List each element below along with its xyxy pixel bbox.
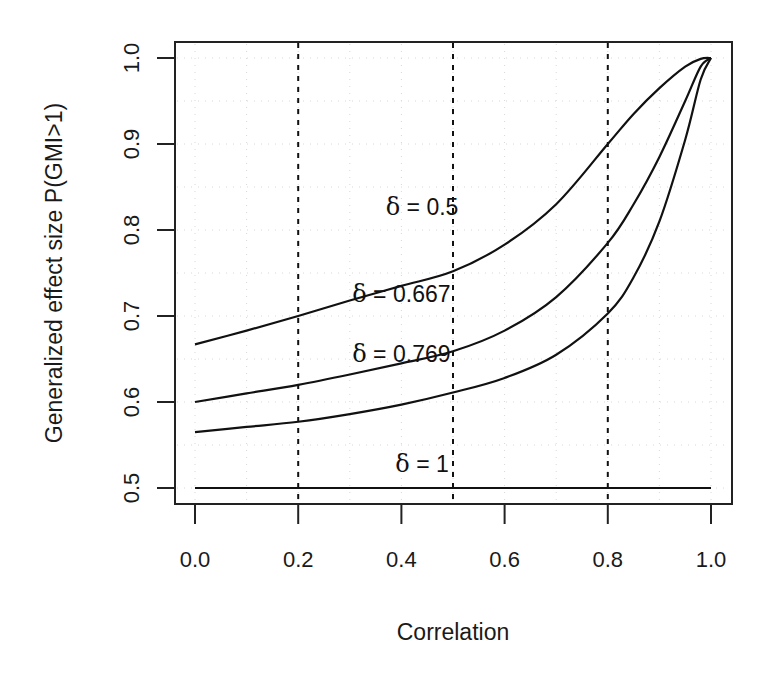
curve-label: δ = 0.5 [386, 193, 459, 221]
x-tick-label: 0.4 [386, 547, 417, 572]
curve-label: δ = 1 [395, 450, 448, 478]
chart-canvas: 0.00.20.40.60.81.0 0.50.60.70.80.91.0 δ … [0, 0, 774, 674]
x-axis-title: Correlation [397, 619, 510, 645]
curve-label: δ = 0.667 [352, 280, 450, 308]
reference-dashed-lines [298, 43, 608, 503]
x-tick-label: 1.0 [696, 547, 727, 572]
curve-label: δ = 0.769 [352, 340, 450, 368]
y-tick-label: 0.5 [119, 473, 144, 504]
y-tick-label: 0.9 [119, 129, 144, 160]
x-tick-label: 0.2 [283, 547, 314, 572]
y-tick-label: 1.0 [119, 43, 144, 74]
y-tick-label: 0.6 [119, 387, 144, 418]
y-tick-label: 0.7 [119, 301, 144, 332]
x-tick-label: 0.0 [180, 547, 211, 572]
curve-labels: δ = 0.5δ = 0.667δ = 0.769δ = 1 [352, 193, 458, 477]
x-axis: 0.00.20.40.60.81.0 [180, 504, 727, 572]
y-tick-label: 0.8 [119, 215, 144, 246]
y-axis: 0.50.60.70.80.91.0 [119, 43, 175, 504]
y-axis-title: Generalized effect size P(GMI>1) [41, 103, 67, 443]
x-tick-label: 0.8 [593, 547, 624, 572]
x-tick-label: 0.6 [489, 547, 520, 572]
